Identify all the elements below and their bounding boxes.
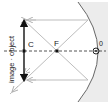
light-rays bbox=[10, 20, 88, 94]
center-label: C bbox=[28, 40, 34, 49]
center-point bbox=[23, 50, 26, 53]
vertical-label: image · object bbox=[7, 35, 16, 83]
pole-dot bbox=[95, 50, 97, 52]
focus-point bbox=[56, 50, 59, 53]
pole-label: 0 bbox=[99, 40, 103, 47]
ray-diagram: C F 0 image · object bbox=[0, 0, 108, 104]
focus-label: F bbox=[54, 39, 59, 48]
